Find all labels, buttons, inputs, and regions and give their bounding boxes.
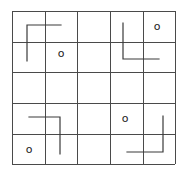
marker-r3c3: o — [122, 112, 129, 125]
grid-canvas: oooo — [0, 0, 185, 173]
grid-lines — [12, 11, 176, 165]
marker-r0c4: o — [154, 20, 161, 33]
grid-diagram: oooo — [0, 0, 185, 173]
marker-r4c0: o — [26, 143, 33, 156]
bottom-left-l-shape — [29, 117, 60, 154]
marker-r1c2: o — [58, 47, 65, 60]
